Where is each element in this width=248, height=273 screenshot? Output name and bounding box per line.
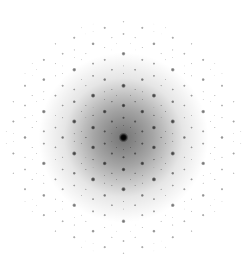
diffraction-spot bbox=[130, 179, 132, 181]
diffraction-spot bbox=[240, 143, 242, 145]
diffraction-spot bbox=[121, 187, 126, 192]
diffraction-spot bbox=[232, 120, 235, 123]
diffraction-spot bbox=[54, 146, 57, 149]
diffraction-spot bbox=[91, 42, 95, 46]
diffraction-spot bbox=[141, 214, 144, 217]
diffraction-spot bbox=[24, 104, 27, 107]
diffraction-spot bbox=[92, 62, 95, 65]
diffraction-spot bbox=[232, 101, 234, 103]
diffraction-spot bbox=[92, 158, 94, 160]
diffraction-spot bbox=[134, 185, 136, 187]
diffraction-spot bbox=[152, 229, 156, 233]
diffraction-spot bbox=[85, 188, 87, 190]
diffraction-spot bbox=[170, 151, 175, 156]
diffraction-spot bbox=[61, 168, 64, 171]
diffraction-spot bbox=[183, 117, 185, 119]
diffraction-spot bbox=[102, 161, 107, 166]
diffraction-spot bbox=[42, 58, 45, 61]
diffraction-spot bbox=[165, 214, 167, 216]
diffraction-spot bbox=[153, 114, 155, 116]
diffraction-spot bbox=[73, 236, 76, 239]
diffraction-spot bbox=[54, 230, 56, 232]
diffraction-spot bbox=[210, 101, 211, 102]
diffraction-spot bbox=[141, 246, 144, 249]
diffraction-spot bbox=[42, 161, 46, 165]
diffraction-spot bbox=[81, 27, 83, 29]
diffraction-spot bbox=[183, 188, 186, 191]
diffraction-spot bbox=[103, 130, 106, 133]
diffraction-spot bbox=[111, 89, 113, 91]
diffraction-spot bbox=[171, 203, 175, 207]
diffraction-spot bbox=[214, 115, 215, 116]
diffraction-spot bbox=[210, 205, 212, 207]
diffraction-spot bbox=[165, 246, 167, 248]
diffraction-spot bbox=[116, 179, 118, 181]
diffraction-spot bbox=[184, 73, 186, 75]
diffraction-spot bbox=[43, 175, 45, 177]
diffraction-spot bbox=[202, 58, 205, 61]
diffraction-spot bbox=[92, 243, 94, 245]
diffraction-spot bbox=[110, 120, 113, 123]
diffraction-spot bbox=[111, 236, 113, 238]
diffraction-spot bbox=[85, 169, 87, 171]
diffraction-spot bbox=[130, 147, 132, 149]
diffraction-spot bbox=[153, 107, 155, 109]
diffraction-spot bbox=[232, 152, 235, 155]
diffraction-spot bbox=[165, 195, 167, 197]
diffraction-spot bbox=[183, 136, 187, 140]
diffraction-spot bbox=[190, 126, 193, 129]
diffraction-spot bbox=[12, 152, 15, 155]
diffraction-spot bbox=[122, 252, 124, 254]
diffraction-spot bbox=[54, 43, 56, 45]
diffraction-spot bbox=[31, 63, 33, 65]
diffraction-spot bbox=[24, 84, 27, 87]
diffraction-spot bbox=[73, 36, 76, 39]
diffraction-spot bbox=[214, 146, 216, 148]
diffraction-spot bbox=[73, 88, 76, 91]
diffraction-spot bbox=[130, 43, 131, 44]
diffraction-spot bbox=[134, 120, 137, 123]
diffraction-spot bbox=[81, 131, 83, 133]
diffraction-spot bbox=[221, 156, 223, 158]
diffraction-spot bbox=[123, 208, 125, 210]
diffraction-spot bbox=[24, 201, 26, 203]
diffraction-spot bbox=[123, 73, 125, 75]
diffraction-spot bbox=[152, 42, 156, 46]
diffraction-spot bbox=[43, 99, 45, 101]
diffraction-spot bbox=[61, 220, 64, 223]
diffraction-spot bbox=[31, 178, 33, 180]
diffraction-spot bbox=[72, 151, 77, 156]
diffraction-spot bbox=[92, 107, 94, 109]
diffraction-spot bbox=[171, 68, 175, 72]
diffraction-spot bbox=[111, 68, 114, 71]
diffraction-spot bbox=[103, 58, 106, 61]
diffraction-spot bbox=[172, 224, 174, 226]
diffraction-spot bbox=[184, 65, 185, 66]
diffraction-spot bbox=[153, 75, 156, 78]
diffraction-spot bbox=[153, 198, 156, 201]
diffraction-spot bbox=[191, 115, 193, 117]
diffraction-spot bbox=[31, 198, 33, 200]
diffraction-spot bbox=[42, 109, 46, 113]
diffraction-spot bbox=[134, 37, 136, 39]
diffraction-spot bbox=[152, 125, 157, 130]
diffraction-spot bbox=[134, 152, 137, 155]
diffraction-spot bbox=[171, 36, 174, 39]
diffraction-spot bbox=[232, 172, 234, 174]
diffraction-spot bbox=[160, 157, 162, 159]
diffraction-spot bbox=[172, 217, 173, 218]
diffraction-spot bbox=[121, 52, 125, 56]
diffraction-spot bbox=[160, 220, 162, 222]
diffraction-spot bbox=[134, 49, 136, 51]
diffraction-spot bbox=[210, 69, 212, 71]
diffraction-spot bbox=[91, 145, 96, 150]
diffraction-spot bbox=[191, 159, 193, 161]
diffraction-spot bbox=[102, 109, 107, 114]
diffraction-spot bbox=[221, 168, 224, 171]
diffraction-spot bbox=[134, 204, 137, 207]
diffraction-spot bbox=[190, 43, 192, 45]
diffraction-spot bbox=[152, 145, 157, 150]
diffraction-spot bbox=[42, 214, 45, 217]
diffraction-spot bbox=[202, 99, 204, 101]
diffraction-spot bbox=[153, 166, 155, 168]
